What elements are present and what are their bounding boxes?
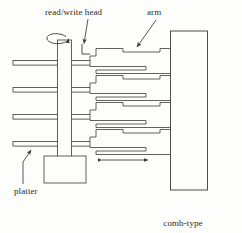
head-tip-riser [82, 44, 90, 54]
comb-arms-group [90, 49, 172, 155]
label-read-write-head: read/write head [45, 7, 102, 18]
arm-pair-4 [90, 130, 172, 155]
arm-pair-1 [90, 49, 172, 74]
comb-type-access-mechanism [171, 31, 208, 190]
label-comb-line-1: comb-type [135, 218, 231, 229]
leader-lines-group [23, 19, 156, 184]
access-mechanism-group [171, 31, 208, 190]
spindle-base [44, 156, 86, 183]
disk-mechanism-figure: read/write head arm platter comb-type ac… [0, 0, 242, 233]
arm-pair-2 [90, 76, 172, 101]
label-arm: arm [147, 7, 161, 18]
leader-read-write-head [84, 19, 88, 44]
head-tip-group [82, 44, 90, 54]
leader-arm [137, 20, 156, 47]
label-platter: platter [14, 186, 38, 197]
label-comb-type-access-mechanism: comb-type access mechanism [135, 197, 231, 233]
leader-platter [23, 150, 31, 184]
spindle [58, 40, 72, 157]
arm-pair-3 [90, 103, 172, 128]
